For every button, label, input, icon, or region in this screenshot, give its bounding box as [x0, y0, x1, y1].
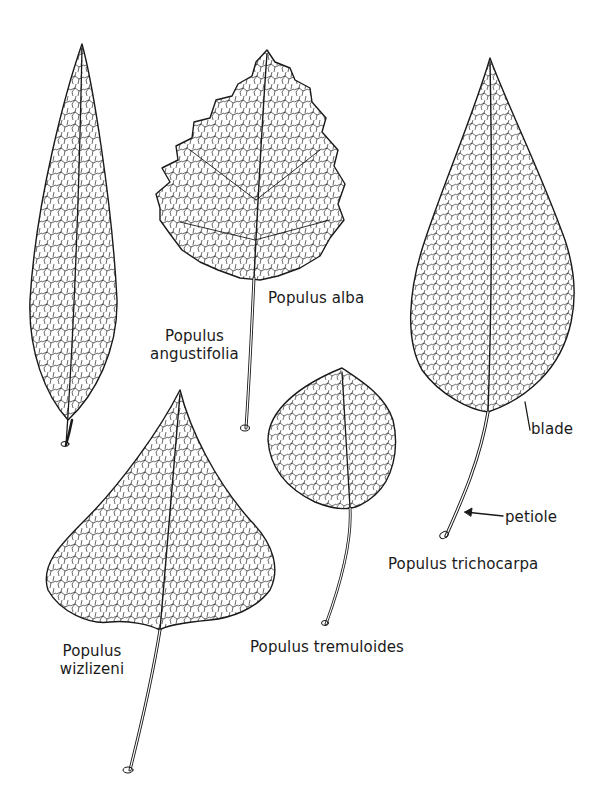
- blade-callout-line: [525, 402, 530, 430]
- label-angustifolia-line2: angustifolia: [147, 345, 242, 363]
- leaf-alba: [156, 50, 345, 431]
- leaf-angustifolia: [30, 44, 117, 447]
- leaf-wizlizeni: [46, 390, 275, 773]
- label-alba: Populus alba: [268, 289, 364, 307]
- label-angustifolia-line1: Populus: [147, 327, 242, 345]
- label-angustifolia: Populus angustifolia: [147, 327, 242, 363]
- label-petiole: petiole: [505, 508, 557, 526]
- leaf-tremuloides: [268, 368, 396, 626]
- label-wizlizeni-line2: wizlizeni: [52, 660, 132, 678]
- label-tremuloides: Populus tremuloides: [250, 638, 404, 656]
- label-wizlizeni-line1: Populus: [52, 642, 132, 660]
- label-wizlizeni: Populus wizlizeni: [52, 642, 132, 678]
- label-blade: blade: [531, 420, 573, 438]
- label-trichocarpa: Populus trichocarpa: [388, 555, 538, 573]
- leaf-trichocarpa: [411, 58, 574, 540]
